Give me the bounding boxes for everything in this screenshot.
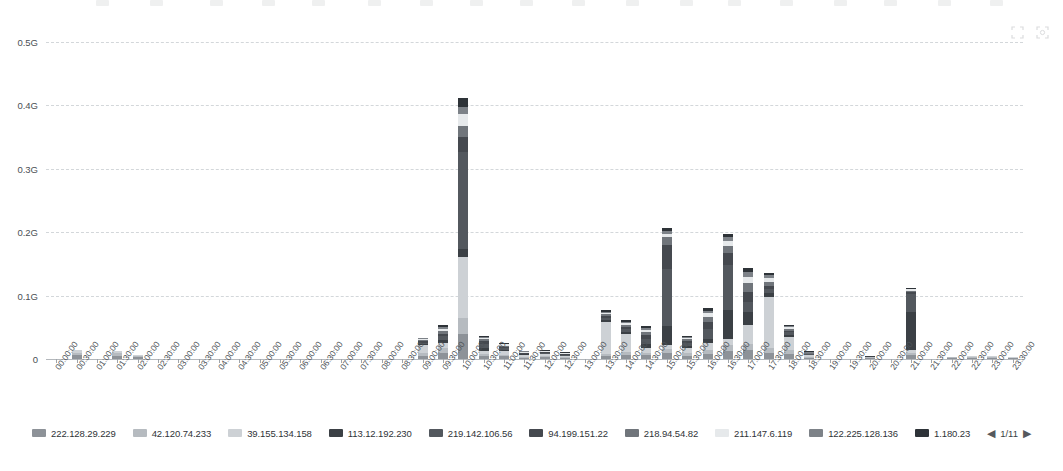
legend-item[interactable]: 222.128.29.229 [32,428,116,439]
bar-segment[interactable] [458,107,468,114]
legend-label: 39.155.134.158 [247,428,312,439]
clipped-legend-swatch [368,0,381,6]
x-axis: 00:00:0000:30:0001:00:0001:30:0002:00:00… [46,359,1023,421]
legend-label: 94.199.151.22 [548,428,607,439]
legend-swatch [809,429,823,437]
legend-label: 1.180.23 [934,428,970,439]
clipped-legend-item [728,0,741,6]
legend[interactable]: 222.128.29.22942.120.74.23339.155.134.15… [0,418,1063,448]
clipped-legend-swatch [210,0,223,6]
bar-segment[interactable] [458,126,468,136]
legend-label: 211.147.6.119 [734,428,792,439]
clipped-legend-item [834,0,847,6]
bar-segment[interactable] [743,302,753,312]
y-tick-label: 0.2G [17,227,38,238]
legend-page-label: 1/11 [1000,428,1018,439]
legend-label: 219.142.106.56 [448,428,513,439]
clipped-legend-item [938,0,951,6]
y-tick-label: 0.5G [17,37,38,48]
clipped-legend-swatch [884,0,897,6]
bar-series-container [46,42,1023,359]
bar-segment[interactable] [703,329,713,339]
legend-item[interactable]: 113.12.192.230 [329,428,412,439]
clipped-legend-swatch [728,0,741,6]
legend-prev-page-icon[interactable]: ◀ [987,428,995,439]
legend-item[interactable]: 42.120.74.233 [133,428,211,439]
clipped-legend-swatch [470,0,483,6]
legend-item[interactable]: 1.180.23 [915,428,970,439]
bar-segment[interactable] [723,265,733,309]
bar-segment[interactable] [458,114,468,126]
clipped-legend-swatch [312,0,325,6]
legend-swatch [915,429,929,437]
y-tick-label: 0.3G [17,163,38,174]
bar-segment[interactable] [458,318,468,333]
clipped-legend-swatch [572,0,585,6]
bar-segment[interactable] [743,283,753,292]
bar-segment[interactable] [662,245,672,269]
legend-swatch [715,429,729,437]
clipped-legend-item [96,0,109,6]
clipped-legend-swatch [938,0,951,6]
legend-swatch [228,429,242,437]
bar-segment[interactable] [458,257,468,318]
legend-label: 42.120.74.233 [152,428,211,439]
bar[interactable] [662,228,672,359]
legend-swatch [329,429,343,437]
clipped-legend-swatch [680,0,693,6]
legend-swatch [625,429,639,437]
bar-segment[interactable] [723,310,733,339]
bar-segment[interactable] [458,249,468,257]
legend-next-page-icon[interactable]: ▶ [1023,428,1031,439]
bar-segment[interactable] [662,237,672,244]
y-tick-label: 0 [33,354,38,365]
legend-swatch [429,429,443,437]
legend-swatch [133,429,147,437]
bar-segment[interactable] [743,312,753,325]
legend-label: 122.225.128.136 [828,428,898,439]
legend-item[interactable]: 94.199.151.22 [529,428,607,439]
bar-segment[interactable] [458,137,468,152]
bar-segment[interactable] [906,294,916,312]
legend-label: 218.94.54.82 [644,428,698,439]
clipped-legend-swatch [420,0,433,6]
clipped-legend-swatch [780,0,793,6]
legend-label: 113.12.192.230 [348,428,412,439]
clipped-legend-swatch [834,0,847,6]
clipped-legend-item [312,0,325,6]
clipped-legend-item [680,0,693,6]
legend-swatch [529,429,543,437]
bar-segment[interactable] [458,98,468,107]
clipped-legend-swatch [262,0,275,6]
clipped-legend-item [150,0,163,6]
legend-item[interactable]: 218.94.54.82 [625,428,698,439]
clipped-legend-item [470,0,483,6]
clipped-legend-item [520,0,533,6]
plot-area [46,42,1023,359]
bar-segment[interactable] [662,269,672,326]
clipped-legend-item [420,0,433,6]
clipped-legend-swatch [626,0,639,6]
legend-pager[interactable]: ◀1/11▶ [987,428,1031,439]
clipped-legend-item [780,0,793,6]
legend-item[interactable]: 39.155.134.158 [228,428,312,439]
legend-item[interactable]: 211.147.6.119 [715,428,792,439]
legend-label: 222.128.29.229 [51,428,116,439]
clipped-legend-item [990,0,1003,6]
y-axis: 00.1G0.2G0.3G0.4G0.5G [0,42,42,359]
bar[interactable] [458,98,468,359]
clipped-top-legend-strip [0,0,1063,10]
bar-segment[interactable] [458,152,468,249]
y-tick-label: 0.1G [17,290,38,301]
clipped-legend-swatch [990,0,1003,6]
clipped-legend-swatch [96,0,109,6]
bar-segment[interactable] [723,253,733,266]
legend-item[interactable]: 219.142.106.56 [429,428,513,439]
legend-item[interactable]: 122.225.128.136 [809,428,898,439]
clipped-legend-item [884,0,897,6]
chart-area: 00.1G0.2G0.3G0.4G0.5G 00:00:0000:30:0001… [0,14,1063,414]
clipped-legend-swatch [150,0,163,6]
clipped-legend-item [210,0,223,6]
clipped-legend-swatch [520,0,533,6]
bar-segment[interactable] [743,292,753,302]
